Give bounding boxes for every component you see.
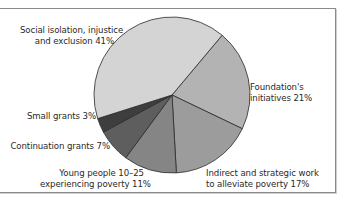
label-line: Small grants 3%: [20, 111, 96, 122]
label-foundation-initiatives: Foundation's initiatives 21%: [250, 82, 312, 104]
label-line: initiatives 21%: [250, 93, 312, 104]
label-line: Social isolation, injustice: [20, 25, 114, 36]
label-young-people: Young people 10–25 experiencing poverty …: [40, 168, 144, 190]
label-line: to alleviate poverty 17%: [206, 179, 319, 190]
label-line: Indirect and strategic work: [206, 168, 319, 179]
label-line: and exclusion 41%: [20, 36, 114, 47]
label-line: experiencing poverty 11%: [40, 179, 144, 190]
label-line: Continuation grants 7%: [10, 141, 110, 152]
label-small-grants: Small grants 3%: [20, 111, 96, 122]
label-continuation-grants: Continuation grants 7%: [10, 141, 110, 152]
label-line: Foundation's: [250, 82, 312, 93]
label-line: Young people 10–25: [40, 168, 144, 179]
label-social-isolation: Social isolation, injustice and exclusio…: [20, 25, 114, 47]
label-indirect-strategic: Indirect and strategic work to alleviate…: [206, 168, 319, 190]
